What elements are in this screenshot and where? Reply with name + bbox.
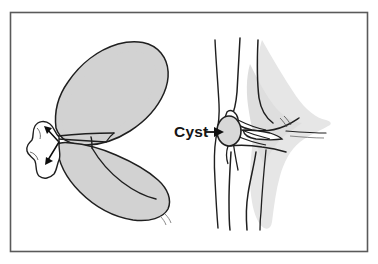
figure-container: Cyst <box>0 0 378 264</box>
cyst-label: Cyst <box>174 123 208 140</box>
medical-illustration: Cyst <box>0 0 378 264</box>
